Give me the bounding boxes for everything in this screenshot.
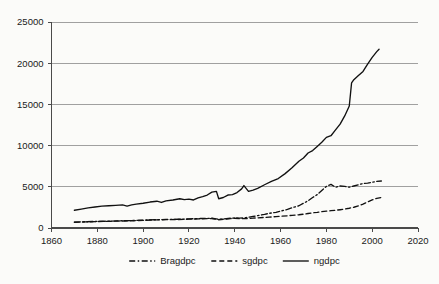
x-tick-label: 1980 xyxy=(316,235,337,246)
y-axis-tick-labels: 0500010000150002000025000 xyxy=(17,16,43,233)
legend-label-sgdpc: sgdpc xyxy=(242,255,268,266)
chart-container: 0500010000150002000025000 18601880190019… xyxy=(0,0,439,284)
line-chart-plot: 0500010000150002000025000 18601880190019… xyxy=(0,0,439,284)
x-tick-label: 1860 xyxy=(41,235,62,246)
x-tick-label: 1880 xyxy=(87,235,108,246)
data-series-group xyxy=(74,49,381,222)
x-tick-label: 1960 xyxy=(270,235,291,246)
axes-group xyxy=(52,22,419,228)
series-line-sgdpc xyxy=(74,198,381,223)
y-tick-label: 5000 xyxy=(22,181,43,192)
y-tick-label: 25000 xyxy=(17,16,43,27)
x-tick-label: 1920 xyxy=(178,235,199,246)
legend-label-Bragdpc: Bragdpc xyxy=(160,255,196,266)
chart-legend: Bragdpcsgdpcngdpc xyxy=(129,255,340,266)
x-axis-tick-labels: 186018801900192019401960198020002020 xyxy=(41,235,429,246)
tickmarks-group xyxy=(48,22,419,232)
x-tick-label: 2020 xyxy=(407,235,428,246)
y-tick-label: 10000 xyxy=(17,140,43,151)
x-tick-label: 1940 xyxy=(224,235,245,246)
y-tick-label: 15000 xyxy=(17,99,43,110)
gridlines-group xyxy=(52,22,419,228)
legend-label-ngdpc: ngdpc xyxy=(314,255,340,266)
y-tick-label: 0 xyxy=(38,222,43,233)
x-tick-label: 2000 xyxy=(362,235,383,246)
x-tick-label: 1900 xyxy=(133,235,154,246)
y-tick-label: 20000 xyxy=(17,58,43,69)
